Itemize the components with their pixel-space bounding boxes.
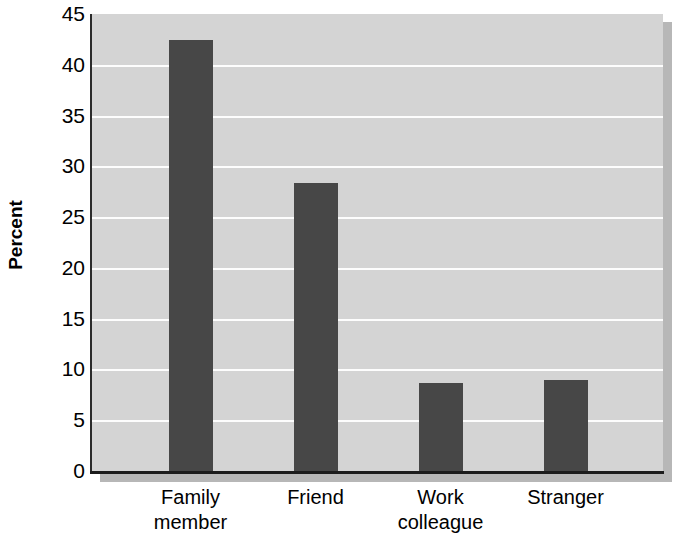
y-axis-tick-label: 10: [45, 358, 85, 379]
y-axis-tick-label: 5: [45, 409, 85, 430]
y-axis-tick-label: 0: [45, 460, 85, 481]
x-axis-line: [90, 471, 664, 474]
x-axis-category-label-line: member: [116, 510, 266, 535]
y-axis-title: Percent: [3, 180, 29, 290]
bar: [294, 183, 338, 471]
y-axis-tick-label: 25: [45, 206, 85, 227]
plot-area: [92, 14, 663, 472]
y-axis-tick-label: 20: [45, 257, 85, 278]
x-axis-category-label-line: colleague: [366, 510, 516, 535]
bar: [419, 383, 463, 471]
y-axis-line: [90, 14, 92, 473]
y-axis-tick-label: 35: [45, 105, 85, 126]
y-axis-tick-label: 45: [45, 3, 85, 24]
y-axis-tick-labels: 454035302520151050: [38, 0, 85, 554]
x-axis-category-label: Stranger: [491, 485, 641, 510]
bar: [169, 40, 213, 471]
y-axis-tick-label: 30: [45, 155, 85, 176]
y-axis-tick-label: 40: [45, 54, 85, 75]
bar-chart: Percent 454035302520151050 FamilymemberF…: [0, 0, 674, 554]
y-axis-tick-label: 15: [45, 308, 85, 329]
bar: [544, 380, 588, 471]
x-axis-category-label-line: Stranger: [491, 485, 641, 510]
